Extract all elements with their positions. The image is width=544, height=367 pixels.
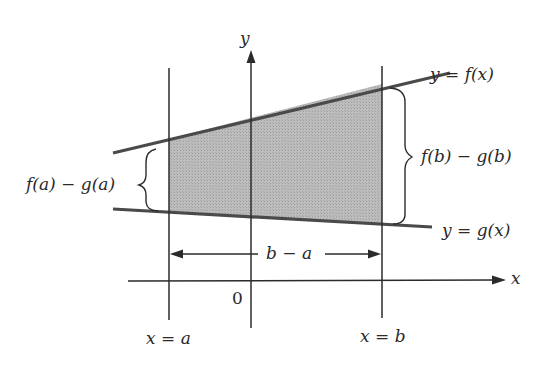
x-axis-line [128, 280, 494, 281]
area-between-curves-diagram: y x 0 y = f(x) y = g(x) f(a) − g(a) f(b)… [0, 0, 544, 367]
g-curve-label: y = g(x) [442, 222, 510, 239]
origin-label: 0 [232, 290, 243, 307]
x-axis-label: x [511, 270, 521, 287]
right-brace-icon [390, 88, 412, 224]
x-equals-b-label: x = b [360, 328, 406, 345]
left-brace-icon [139, 149, 158, 211]
y-axis-label: y [240, 30, 250, 47]
y-axis-arrow-icon [247, 50, 256, 63]
width-right-arrow-icon [368, 250, 381, 259]
shaded-area-region [169, 84, 382, 224]
width-left-arrow-icon [170, 250, 183, 259]
f-curve-label: y = f(x) [430, 66, 494, 83]
width-label: b − a [266, 245, 312, 262]
x-equals-a-label: x = a [146, 330, 191, 347]
height-at-a-label: f(a) − g(a) [26, 176, 115, 193]
height-at-b-label: f(b) − g(b) [421, 148, 512, 165]
x-axis-arrow-icon [492, 276, 506, 285]
